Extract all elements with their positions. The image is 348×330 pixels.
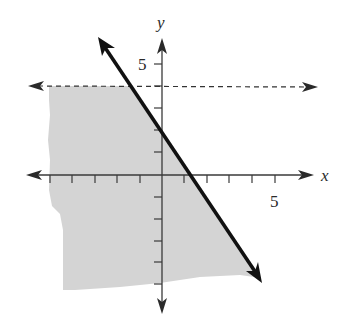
line-upper-arrow-icon <box>98 37 115 56</box>
x-axis-label: x <box>320 166 329 185</box>
y-tick-label-5: 5 <box>138 55 147 74</box>
y-axis-label: y <box>155 13 165 32</box>
shaded-region <box>48 86 261 290</box>
graph: x y 5 5 <box>0 0 348 330</box>
x-tick-label-5: 5 <box>270 192 279 211</box>
dashed-right-arrow-icon <box>302 82 318 92</box>
